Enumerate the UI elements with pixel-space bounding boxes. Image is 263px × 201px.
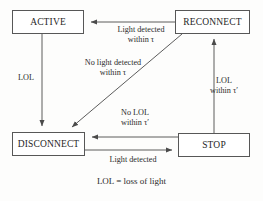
state-label-disconnect: DISCONNECT xyxy=(18,139,80,149)
figure-caption: LOL = loss of light xyxy=(0,176,263,186)
edge-label-line2: within τ′ xyxy=(104,118,166,128)
edge-label-line1: No LOL xyxy=(104,108,166,118)
edge-label-line2: within τ xyxy=(63,68,163,78)
edge-label-stop-to-reconnect: LOL within τ′ xyxy=(200,76,248,96)
state-diagram-figure: ACTIVE RECONNECT DISCONNECT STOP Light d… xyxy=(0,0,263,201)
edge-label-disconnect-to-stop: Light detected xyxy=(97,155,169,165)
state-box-active[interactable]: ACTIVE xyxy=(12,10,84,34)
state-box-reconnect[interactable]: RECONNECT xyxy=(175,10,250,34)
edge-label-line1: Light detected xyxy=(97,155,169,165)
state-box-disconnect[interactable]: DISCONNECT xyxy=(12,132,85,156)
edge-label-reconnect-to-active: Light detected within τ xyxy=(98,25,184,45)
edge-label-active-to-disconnect: LOL xyxy=(18,73,40,83)
edge-label-line2: within τ xyxy=(98,35,184,45)
state-label-active: ACTIVE xyxy=(30,17,66,27)
state-box-stop[interactable]: STOP xyxy=(178,133,250,157)
edge-label-line1: No light detected xyxy=(63,58,163,68)
edge-label-stop-to-disconnect: No LOL within τ′ xyxy=(104,108,166,128)
edge-label-reconnect-to-disconnect: No light detected within τ xyxy=(63,58,163,78)
state-label-reconnect: RECONNECT xyxy=(183,17,241,27)
edge-label-line1: Light detected xyxy=(98,25,184,35)
edge-label-line1: LOL xyxy=(18,73,40,83)
edge-label-line2: within τ′ xyxy=(200,86,248,96)
edge-label-line1: LOL xyxy=(200,76,248,86)
state-label-stop: STOP xyxy=(202,140,226,150)
